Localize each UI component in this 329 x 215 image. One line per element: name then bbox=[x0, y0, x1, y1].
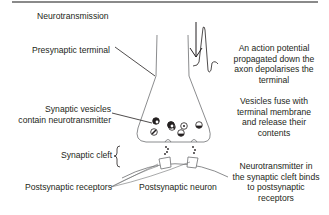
label-postsynaptic-neuron: Postsynaptic neuron bbox=[139, 182, 217, 193]
label-postsynaptic-receptors: Postsynaptic receptors bbox=[25, 182, 112, 193]
annotation-action-potential: An action potential propagated down the … bbox=[220, 43, 328, 85]
annotation-vesicle-fusion: Vesicles fuse with terminal membrane and… bbox=[220, 96, 328, 138]
label-presynaptic-terminal: Presynaptic terminal bbox=[32, 45, 110, 56]
annotation-binding: Neurotransmitter in the synaptic cleft b… bbox=[222, 161, 329, 203]
action-potential-waveform-icon bbox=[193, 27, 218, 72]
neurotransmitter-dots bbox=[164, 146, 196, 155]
vesicles-icon bbox=[151, 118, 203, 137]
label-synaptic-cleft: Synaptic cleft bbox=[61, 150, 112, 161]
cleft-bracket bbox=[114, 146, 120, 167]
receptor-left bbox=[159, 157, 171, 169]
postsynaptic-membrane bbox=[122, 164, 228, 178]
diagram-title: Neurotransmission bbox=[37, 11, 109, 22]
label-synaptic-vesicles: Synaptic vesicles contain neurotransmitt… bbox=[10, 104, 111, 125]
